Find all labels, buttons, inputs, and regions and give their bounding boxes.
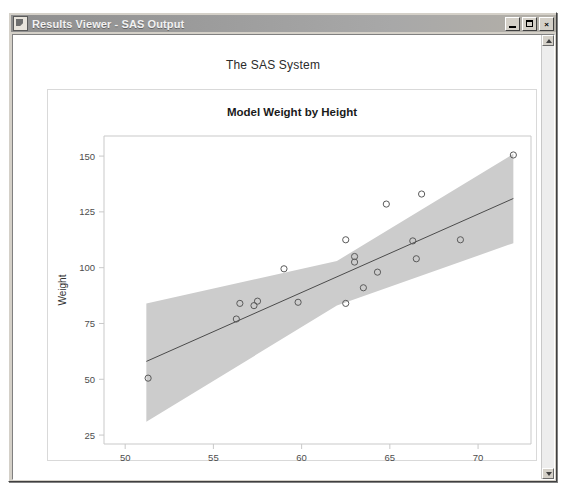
y-tick-label: 150 — [79, 151, 95, 162]
close-button[interactable]: × — [539, 17, 554, 31]
minimize-button[interactable] — [505, 17, 520, 31]
y-tick-label: 125 — [79, 206, 95, 217]
graph-container: Model Weight by Height 25507510012515050… — [47, 89, 537, 461]
window-controls: × — [505, 17, 554, 31]
viewer-client-area: The SAS System Model Weight by Height 25… — [12, 34, 555, 480]
document-icon — [13, 16, 28, 31]
maximize-button[interactable] — [522, 17, 537, 31]
results-viewer-window: Results Viewer - SAS Output × The SAS Sy… — [8, 12, 557, 482]
confidence-band — [146, 154, 513, 422]
scroll-up-icon[interactable] — [542, 35, 554, 46]
y-tick-label: 50 — [84, 374, 95, 385]
data-point — [419, 191, 425, 197]
regression-line — [146, 198, 513, 361]
data-point — [343, 237, 349, 243]
x-tick-label: 65 — [385, 452, 396, 462]
sas-output-report: The SAS System Model Weight by Height 25… — [13, 35, 541, 479]
y-tick-label: 75 — [84, 318, 95, 329]
page-title: The SAS System — [13, 58, 533, 72]
y-tick-label: 100 — [79, 262, 95, 273]
scatter-plot: 2550751001251505055606570HeightWeight — [48, 90, 538, 462]
window-titlebar[interactable]: Results Viewer - SAS Output × — [11, 15, 556, 32]
data-point — [383, 201, 389, 207]
vertical-scrollbar[interactable] — [541, 35, 554, 479]
x-tick-label: 60 — [296, 452, 307, 462]
x-tick-label: 55 — [208, 452, 219, 462]
y-tick-label: 25 — [84, 430, 95, 441]
y-axis-title: Weight — [57, 274, 68, 305]
data-point — [281, 266, 287, 272]
x-tick-label: 50 — [120, 452, 131, 462]
window-title: Results Viewer - SAS Output — [32, 18, 184, 30]
scroll-down-icon[interactable] — [542, 468, 554, 479]
x-tick-label: 70 — [473, 452, 484, 462]
